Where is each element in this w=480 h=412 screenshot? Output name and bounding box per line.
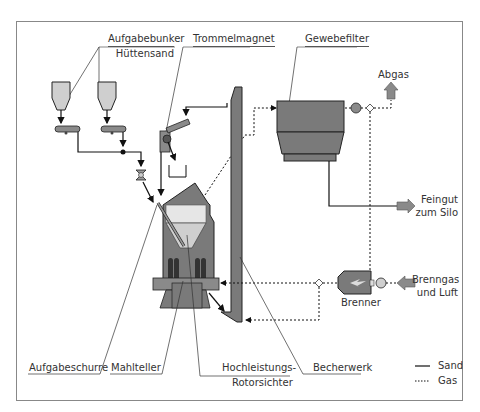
leader-aufgabeschurre [28, 205, 157, 374]
label-hochleistungs: Hochleistungs- [222, 362, 296, 374]
diverter-valve-bottom [315, 279, 323, 287]
label-trommelmagnet: Trommelmagnet [193, 33, 275, 47]
label-zum-silo: zum Silo [408, 207, 458, 219]
vertical-roller-mill [153, 183, 219, 308]
label-gewebefilter: Gewebefilter [305, 33, 369, 47]
label-aufgabeschurre: Aufgabeschurre [29, 362, 108, 374]
gewebefilter [277, 101, 344, 161]
diverter-valve-top [366, 104, 374, 112]
exhaust-fan [351, 103, 361, 113]
leader-gewebefilter [289, 47, 297, 104]
label-rotorsichter: Rotorsichter [232, 377, 293, 389]
label-becherwerk: Becherwerk [313, 362, 372, 374]
label-und-luft: und Luft [412, 287, 458, 299]
becherwerk [221, 87, 242, 322]
process-diagram: Aufgabebunker Hüttensand Trommelmagnet G… [0, 0, 480, 412]
label-mahlteller: Mahlteller [111, 362, 161, 374]
hopper-left [52, 82, 70, 110]
label-aufgabebunker: Aufgabebunker [108, 33, 174, 47]
leader-aufgabebunker [69, 47, 99, 96]
weigh-feeder-right [101, 126, 126, 135]
diagram-canvas [0, 0, 480, 412]
label-feingut: Feingut [418, 194, 458, 206]
abgas-arrow [384, 82, 398, 99]
label-brenngas: Brenngas [412, 274, 458, 286]
brenner [338, 271, 374, 294]
hopper-right [98, 82, 116, 110]
label-huettensand: Hüttensand [108, 48, 174, 60]
label-brenner: Brenner [341, 297, 381, 309]
legend-sand-label: Sand [438, 360, 463, 372]
rotary-valve [136, 170, 146, 180]
trommelmagnet [160, 119, 190, 152]
reject-bin [169, 165, 186, 177]
weigh-feeder-left [55, 126, 80, 135]
burner-fan [376, 278, 386, 288]
label-abgas: Abgas [378, 69, 409, 81]
legend-gas-label: Gas [438, 375, 457, 387]
